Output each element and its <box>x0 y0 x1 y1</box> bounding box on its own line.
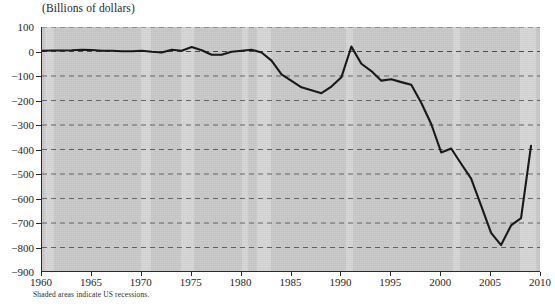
x-axis-tick-mark <box>41 272 42 276</box>
x-axis-tick-mark <box>191 272 192 276</box>
y-axis-tick-mark <box>36 150 41 151</box>
y-axis-tick-label: −900 <box>0 266 34 278</box>
data-series-line <box>42 47 531 245</box>
y-axis-tick-mark <box>36 248 41 249</box>
x-axis-tick-mark <box>91 272 92 276</box>
x-axis-tick-mark <box>390 272 391 276</box>
y-axis-tick-label: 100 <box>0 21 34 33</box>
x-axis-tick-mark <box>440 272 441 276</box>
plot-area <box>41 27 540 272</box>
x-axis-tick-mark <box>340 272 341 276</box>
x-axis-tick-label: 1980 <box>230 276 252 288</box>
data-line-layer <box>42 27 540 272</box>
x-axis-tick-label: 2005 <box>479 276 501 288</box>
x-axis-tick-label: 1990 <box>329 276 351 288</box>
x-axis-tick-label: 1970 <box>130 276 152 288</box>
x-axis-tick-label: 1985 <box>280 276 302 288</box>
x-axis-tick-mark <box>291 272 292 276</box>
x-axis-tick-label: 1995 <box>379 276 401 288</box>
x-axis-tick-mark <box>540 272 541 276</box>
x-axis-tick-mark <box>490 272 491 276</box>
y-axis-tick-mark <box>36 223 41 224</box>
x-axis-tick-label: 1975 <box>180 276 202 288</box>
x-axis-tick-mark <box>141 272 142 276</box>
x-axis-tick-label: 2000 <box>429 276 451 288</box>
y-axis-tick-mark <box>36 52 41 53</box>
y-axis-tick-label: −500 <box>0 168 34 180</box>
y-axis-tick-mark <box>36 125 41 126</box>
y-axis-tick-mark <box>36 174 41 175</box>
chart-axis-title: (Billions of dollars) <box>42 2 135 14</box>
y-axis-tick-mark <box>36 101 41 102</box>
chart-figure: (Billions of dollars) 1000−100−200−300−4… <box>0 0 555 306</box>
y-axis-tick-label: −300 <box>0 119 34 131</box>
y-axis-tick-mark <box>36 76 41 77</box>
x-axis-tick-mark <box>241 272 242 276</box>
y-axis-tick-label: −400 <box>0 144 34 156</box>
y-axis-tick-mark <box>36 199 41 200</box>
y-axis-tick-label: −600 <box>0 193 34 205</box>
x-axis-tick-label: 1965 <box>80 276 102 288</box>
y-axis-tick-label: −800 <box>0 242 34 254</box>
y-axis-tick-label: −100 <box>0 70 34 82</box>
chart-footnote: Shaded areas indicate US recessions. <box>33 290 149 299</box>
y-axis-tick-label: −700 <box>0 217 34 229</box>
y-axis-tick-label: −200 <box>0 95 34 107</box>
y-axis-tick-label: 0 <box>0 46 34 58</box>
x-axis-tick-label: 1960 <box>30 276 52 288</box>
x-axis-tick-label: 2010 <box>529 276 551 288</box>
